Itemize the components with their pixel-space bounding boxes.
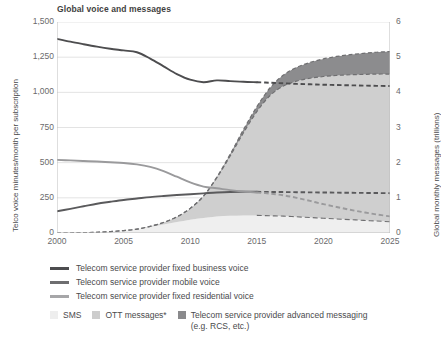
y2-axis-tick-label: 1 [396, 192, 426, 202]
x-axis-tick-label: 2005 [102, 236, 146, 246]
legend-areas: SMS OTT messages* Telecom service provid… [50, 310, 378, 331]
legend-item-label-group: Telecom service provider advanced messag… [191, 310, 368, 331]
legend-area-swatch-icon [50, 311, 58, 319]
legend-item: Telecom service provider advanced messag… [178, 310, 368, 331]
legend-item: Telecom service provider fixed residenti… [50, 289, 430, 303]
legend-area-swatch-icon [92, 311, 100, 319]
y-axis-tick-label: 750 [0, 122, 54, 132]
x-axis-tick-label: 2010 [168, 236, 212, 246]
legend-item: Telecom service provider mobile voice [50, 275, 430, 289]
page-title: Global voice and messages [57, 4, 171, 14]
y-axis-tick-label: 1,500 [0, 16, 54, 26]
y-axis-tick-label: 1,000 [0, 86, 54, 96]
y2-axis-tick-label: 4 [396, 86, 426, 96]
legend-item: OTT messages* [92, 310, 166, 321]
legend-item-label: Telecom service provider mobile voice [76, 277, 220, 287]
y2-axis-tick-label: 2 [396, 157, 426, 167]
legend-item-label: Telecom service provider fixed residenti… [76, 291, 254, 301]
x-axis-tick-label: 2015 [235, 236, 279, 246]
legend-lines: Telecom service provider fixed business … [50, 261, 430, 303]
area-series [57, 74, 390, 233]
y-axis-right-label: Global monthly messages (trillions) [432, 113, 441, 238]
chart-canvas [57, 22, 390, 233]
legend-item-label: SMS [63, 310, 81, 321]
x-axis-tick-label: 2000 [35, 236, 79, 246]
legend-area-swatch-icon [178, 311, 186, 319]
legend-line-swatch-icon [50, 281, 69, 284]
legend-item-sublabel: (e.g. RCS, etc.) [191, 321, 368, 332]
y-axis-tick-label: 500 [0, 157, 54, 167]
plot-area [57, 22, 390, 233]
y2-axis-tick-label: 6 [396, 16, 426, 26]
legend-item-label: Telecom service provider advanced messag… [191, 310, 368, 320]
x-axis-tick-label: 2020 [301, 236, 345, 246]
legend-line-swatch-icon [50, 267, 69, 270]
legend-item: SMS [50, 310, 81, 321]
legend-item-label: OTT messages* [105, 310, 166, 321]
legend-item-label: Telecom service provider fixed business … [76, 263, 248, 273]
y-axis-left-label: Telco voice minutes/month per subscripti… [11, 79, 20, 232]
y2-axis-tick-label: 5 [396, 51, 426, 61]
y2-axis-tick-label: 3 [396, 122, 426, 132]
y-axis-tick-label: 1,250 [0, 51, 54, 61]
x-axis-tick-label: 2025 [368, 236, 412, 246]
y-axis-tick-label: 250 [0, 192, 54, 202]
legend-line-swatch-icon [50, 295, 69, 298]
line-series [57, 39, 257, 82]
legend-item: Telecom service provider fixed business … [50, 261, 430, 275]
